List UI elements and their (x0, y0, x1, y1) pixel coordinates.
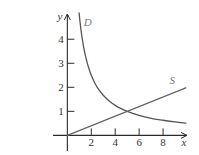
supply-demand-chart: 24681234 y x DS (0, 0, 199, 155)
x-tick-label: 6 (136, 136, 142, 148)
y-tick-label: 3 (58, 57, 64, 69)
y-tick-label: 1 (58, 105, 64, 117)
curve-label-D: D (83, 16, 92, 28)
series-D-line (79, 13, 186, 123)
labels: y x DS (56, 10, 186, 148)
y-axis-label: y (56, 10, 62, 22)
x-tick-label: 4 (112, 136, 118, 148)
x-tick-label: 8 (160, 136, 166, 148)
series-layer (67, 13, 185, 136)
x-tick-label: 2 (89, 136, 95, 148)
axes (53, 14, 187, 151)
ticks: 24681234 (58, 33, 166, 148)
curve-label-S: S (170, 74, 176, 86)
y-tick-label: 2 (58, 81, 64, 93)
series-S-line (67, 88, 185, 136)
y-tick-label: 4 (58, 33, 64, 45)
x-axis-label: x (181, 136, 187, 148)
